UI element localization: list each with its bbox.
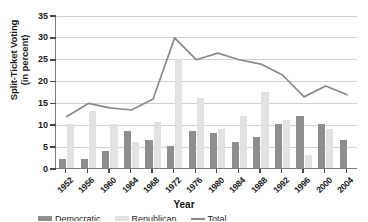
y-axis-tick-label: 15 [22, 99, 48, 108]
x-axis-tick [238, 169, 239, 173]
legend-label: Republican [132, 214, 177, 221]
bar-republican [154, 122, 161, 168]
bar-group [229, 16, 251, 168]
x-axis-tick-label: 1984 [223, 175, 247, 199]
bar-democratic [81, 159, 88, 168]
bar-republican [175, 59, 182, 168]
bar-republican [89, 111, 96, 168]
bar-group [56, 16, 78, 168]
x-axis-tick-label: 1980 [202, 175, 226, 199]
chart-legend: DemocraticRepublicanTotal [38, 214, 236, 221]
plot-area: 05101520253035 [55, 16, 357, 169]
x-axis-tick [346, 169, 347, 173]
bar-democratic [189, 131, 196, 168]
legend-label: Total [208, 214, 227, 221]
bar-republican [132, 142, 139, 168]
x-axis-tick-label: 1996 [288, 175, 312, 199]
x-axis-tick-label: 1968 [137, 175, 161, 199]
x-axis-tick-label: 1972 [159, 175, 183, 199]
legend-label: Democratic [55, 214, 101, 221]
bar-democratic [275, 124, 282, 168]
bar-democratic [296, 116, 303, 168]
bar-group [78, 16, 100, 168]
x-axis-tick-label: 2000 [310, 175, 334, 199]
bar-republican [240, 116, 247, 168]
x-axis-tick-label: 1992 [267, 175, 291, 199]
bar-republican [305, 155, 312, 168]
bar-democratic [253, 137, 260, 168]
x-axis-tick [130, 169, 131, 173]
bar-group [121, 16, 143, 168]
y-axis-tick-label: 35 [22, 12, 48, 21]
x-axis-tick [87, 169, 88, 173]
bar-republican [110, 124, 117, 168]
bar-democratic [232, 142, 239, 168]
bar-republican [283, 120, 290, 168]
legend-swatch-light [115, 216, 129, 222]
bar-democratic [318, 124, 325, 168]
bar-democratic [340, 140, 347, 168]
x-axis-tick-label: 1952 [51, 175, 75, 199]
y-axis-tick-label: 0 [22, 165, 48, 174]
chart-figure: Split-Ticket Voting (in percent) 0510152… [0, 0, 368, 221]
plot-inner: 05101520253035 [56, 16, 357, 168]
y-axis-tick-label: 30 [22, 33, 48, 42]
bar-republican [326, 129, 333, 168]
x-axis-tick-label: 1960 [94, 175, 118, 199]
x-axis-tick [259, 169, 260, 173]
y-axis-tick-label: 25 [22, 55, 48, 64]
legend-swatch-dark [38, 216, 52, 222]
x-axis-tick-label: 1988 [245, 175, 269, 199]
bar-democratic [102, 151, 109, 168]
bar-group [207, 16, 229, 168]
x-axis-tick [324, 169, 325, 173]
x-axis-tick [281, 169, 282, 173]
bar-group [272, 16, 294, 168]
x-axis-tick-label: 2004 [331, 175, 355, 199]
bar-democratic [210, 133, 217, 168]
bar-republican [197, 98, 204, 168]
y-axis-tick [50, 168, 56, 170]
bar-group [336, 16, 358, 168]
bar-republican [218, 129, 225, 168]
y-axis-tick-label: 20 [22, 77, 48, 86]
legend-item: Democratic [38, 214, 101, 221]
y-axis-tick-label: 10 [22, 121, 48, 130]
bar-democratic [145, 140, 152, 168]
x-axis-tick [108, 169, 109, 173]
bar-group [99, 16, 121, 168]
x-axis-tick-label: 1956 [72, 175, 96, 199]
x-axis-tick [65, 169, 66, 173]
y-axis-tick-label: 5 [22, 143, 48, 152]
bar-democratic [167, 146, 174, 168]
legend-item: Total [191, 214, 227, 221]
legend-item: Republican [115, 214, 177, 221]
x-axis-tick-label: 1964 [116, 175, 140, 199]
bar-group [142, 16, 164, 168]
x-axis-tick [302, 169, 303, 173]
legend-swatch-line [191, 218, 205, 220]
bar-democratic [124, 131, 131, 168]
x-axis-tick [195, 169, 196, 173]
bar-republican [261, 92, 268, 169]
x-axis-title: Year [0, 199, 368, 210]
x-axis-tick [173, 169, 174, 173]
y-axis-title-line1: Split-Ticket Voting [8, 0, 19, 125]
bar-republican [67, 124, 74, 168]
x-axis-tick [151, 169, 152, 173]
bar-group [185, 16, 207, 168]
bar-group [250, 16, 272, 168]
x-axis-tick [216, 169, 217, 173]
bar-group [315, 16, 337, 168]
bar-group [293, 16, 315, 168]
bar-democratic [59, 159, 66, 168]
x-axis-tick-label: 1976 [180, 175, 204, 199]
bar-group [164, 16, 186, 168]
